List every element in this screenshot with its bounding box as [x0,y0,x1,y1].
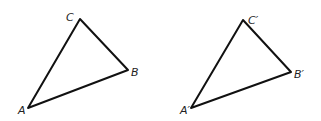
label-b: B [131,66,139,79]
label-b-prime: B′ [294,68,305,81]
triangle-diagram: A B C A′ B′ C′ [0,0,321,121]
label-a: A [17,104,26,117]
label-c-prime: C′ [248,14,259,27]
label-a-prime: A′ [179,104,191,117]
triangle-a-prime-b-prime-c-prime [191,20,291,108]
triangle-abc [28,19,128,108]
label-c: C [66,11,74,24]
